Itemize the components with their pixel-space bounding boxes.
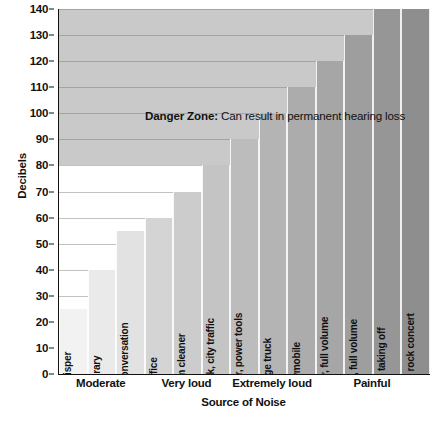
y-tick-mark-60 (49, 217, 54, 218)
y-axis-tick-labels: 0102030405060708090100110120130140 (14, 9, 54, 374)
bar (173, 192, 202, 375)
bar (88, 270, 117, 374)
bar (202, 165, 231, 374)
group-label-extremely-loud: Extremely loud (229, 377, 315, 393)
bar-cell: normal conversation (116, 9, 145, 374)
y-tick-label-60: 60 (36, 212, 48, 224)
y-tick-label-80: 80 (36, 159, 48, 171)
bar (344, 35, 373, 374)
bar (116, 231, 145, 374)
bar-cell: lawn mower, power tools (230, 9, 259, 374)
y-tick-mark-120 (49, 61, 54, 62)
group-label-moderate: Moderate (58, 377, 144, 393)
bar-cell: jet plane taking off (373, 9, 402, 374)
bar (145, 218, 174, 374)
y-tick-label-30: 30 (36, 290, 48, 302)
bar-cell: library (88, 9, 117, 374)
y-tick-label-90: 90 (36, 133, 48, 145)
y-tick-label-140: 140 (30, 3, 48, 15)
y-tick-label-20: 20 (36, 316, 48, 328)
y-tick-label-40: 40 (36, 264, 48, 276)
bar-cell: snowmobile (287, 9, 316, 374)
y-tick-mark-10 (49, 347, 54, 348)
y-tick-label-50: 50 (36, 238, 48, 250)
x-axis-title: Source of Noise (58, 396, 429, 408)
bar-cell: whisper (59, 9, 88, 374)
bar-cell: vacuum cleaner (173, 9, 202, 374)
y-tick-label-110: 110 (30, 81, 48, 93)
decibel-bar-chart: Decibels 0102030405060708090100110120130… (0, 0, 435, 422)
bar-cell: office (145, 9, 174, 374)
plot-area: whisperlibrarynormal conversationofficev… (58, 9, 430, 375)
bar-cell: car stereo, full volume (344, 9, 373, 374)
group-label-very-loud: Very loud (144, 377, 230, 393)
danger-zone-annotation: Danger Zone: Can result in permanent hea… (145, 109, 405, 122)
y-tick-mark-0 (49, 374, 54, 375)
y-tick-label-130: 130 (30, 29, 48, 41)
y-tick-mark-90 (49, 139, 54, 140)
y-tick-mark-40 (49, 269, 54, 270)
y-tick-mark-70 (49, 191, 54, 192)
bar (259, 113, 288, 374)
y-tick-mark-130 (49, 35, 54, 36)
y-tick-label-10: 10 (36, 342, 48, 354)
bar-cell: garbage truck (259, 9, 288, 374)
group-label-painful: Painful (315, 377, 429, 393)
y-tick-label-0: 0 (42, 368, 48, 380)
bar-cell: MP3 player, full volume (316, 9, 345, 374)
y-tick-label-120: 120 (30, 55, 48, 67)
y-tick-mark-110 (49, 87, 54, 88)
y-tick-mark-50 (49, 243, 54, 244)
bar (59, 309, 88, 374)
bar-series: whisperlibrarynormal conversationofficev… (59, 9, 430, 374)
bar (373, 9, 402, 374)
y-tick-mark-80 (49, 165, 54, 166)
bar-cell: front row at rock concert (401, 9, 430, 374)
y-tick-mark-100 (49, 113, 54, 114)
y-tick-label-70: 70 (36, 186, 48, 198)
y-tick-mark-30 (49, 295, 54, 296)
y-tick-label-100: 100 (30, 107, 48, 119)
y-tick-mark-140 (49, 9, 54, 10)
bar (287, 87, 316, 374)
danger-zone-label: Danger Zone: (145, 109, 218, 122)
bar-cell: alarm clock, city traffic (202, 9, 231, 374)
bar (230, 139, 259, 374)
danger-zone-text: Can result in permanent hearing loss (218, 109, 405, 122)
bar (401, 9, 430, 374)
y-tick-mark-20 (49, 321, 54, 322)
x-axis-group-labels: ModerateVery loudExtremely loudPainful (58, 377, 429, 393)
